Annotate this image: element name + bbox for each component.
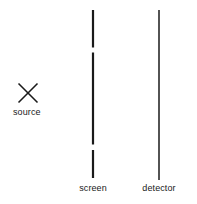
detector-label: detector [142,183,175,194]
source-label: source [13,107,41,118]
screen-label: screen [79,183,107,194]
double-slit-diagram: source screen detector [0,0,197,204]
diagram-canvas [0,0,197,204]
source-x-marker [19,84,38,103]
